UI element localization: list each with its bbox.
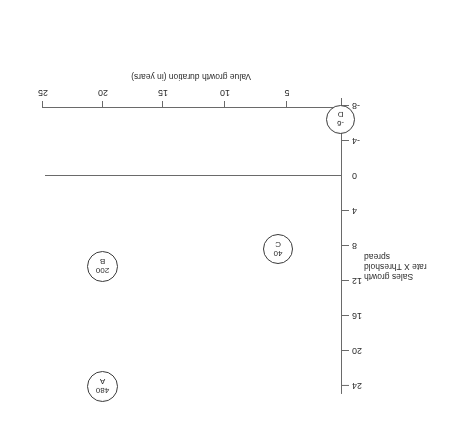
bubble-c-label: C (275, 240, 281, 249)
y-tick-label-minus4: -4 (352, 136, 370, 145)
y-tick-label-minus8: -8 (352, 101, 370, 110)
x-tick-25 (42, 101, 43, 108)
formula-table: Business Unit A B Sales Growth Rate (%) … (0, 0, 466, 61)
y-tick-minus4 (342, 140, 349, 141)
data-bubble-d[interactable]: -6 D (326, 105, 355, 134)
y-tick-24 (342, 385, 349, 386)
x-tick-15 (162, 101, 163, 108)
y-tick-12 (342, 280, 349, 281)
bubble-chart: 24 20 16 12 8 4 0 -4 -8 5 10 15 20 25 Va… (0, 61, 466, 440)
y-tick-4 (342, 210, 349, 211)
data-bubble-a[interactable]: 480 A (87, 371, 118, 402)
y-tick-20 (342, 350, 349, 351)
x-tick-label-15: 15 (150, 88, 176, 97)
x-tick-5 (286, 101, 287, 108)
bubble-d-label: D (338, 111, 344, 120)
y-axis-title-line1: Sales growth (364, 272, 464, 282)
x-axis-line (43, 107, 342, 108)
y-tick-label-20: 20 (352, 346, 370, 355)
rotated-page-canvas: 24 20 16 12 8 4 0 -4 -8 5 10 15 20 25 Va… (0, 0, 466, 440)
bubble-a-value: 480 (96, 387, 109, 396)
x-axis-title: Value growth duration (in years) (46, 72, 336, 82)
bubble-b-value: 200 (96, 267, 109, 276)
y-tick-label-8: 8 (352, 241, 370, 250)
y-tick-8 (342, 245, 349, 246)
x-tick-label-25: 25 (30, 88, 56, 97)
y-tick-label-4: 4 (352, 206, 370, 215)
data-bubble-b[interactable]: 200 B (87, 251, 118, 282)
zero-baseline (45, 175, 342, 176)
x-tick-10 (224, 101, 225, 108)
y-tick-label-24: 24 (352, 381, 370, 390)
y-tick-label-16: 16 (352, 311, 370, 320)
y-tick-16 (342, 315, 349, 316)
bubble-a-label: A (100, 378, 105, 387)
y-axis-title-line3: spread (364, 252, 464, 262)
x-tick-label-5: 5 (274, 88, 300, 97)
y-axis-title-line2: rate X Threshold (364, 262, 464, 272)
x-tick-20 (102, 101, 103, 108)
y-tick-label-0: 0 (352, 171, 370, 180)
x-tick-label-10: 10 (212, 88, 238, 97)
bubble-d-value: -6 (337, 120, 344, 129)
x-tick-label-20: 20 (90, 88, 116, 97)
bubble-c-value: 40 (274, 249, 283, 258)
y-axis-title: Sales growth rate X Threshold spread (364, 252, 464, 282)
data-bubble-c[interactable]: 40 C (263, 234, 293, 264)
bubble-b-label: B (100, 258, 105, 267)
